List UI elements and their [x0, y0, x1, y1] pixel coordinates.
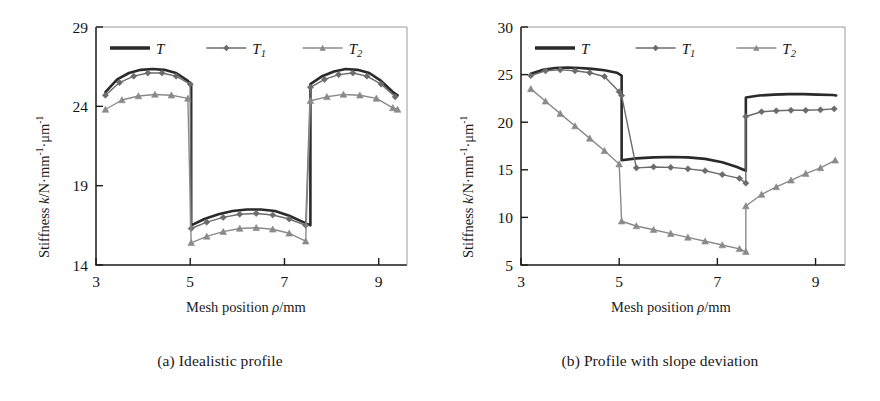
y-axis-label-b: Stiffness k/N·mm-1·μm-1: [458, 116, 477, 258]
y-tick-label: 24: [73, 98, 89, 115]
legend-label-T2: T2: [782, 41, 796, 59]
x-tick-label: 5: [186, 273, 194, 290]
marker-diamond: [633, 165, 639, 171]
marker-triangle: [832, 157, 839, 163]
y-tick-label: 10: [498, 209, 514, 226]
marker-diamond: [719, 171, 725, 177]
marker-diamond: [743, 113, 749, 119]
series-line-T: [105, 69, 397, 225]
legend-label-T1: T1: [252, 41, 266, 59]
y-tick-label: 29: [73, 19, 89, 36]
marker-diamond: [788, 107, 794, 113]
x-tick-label: 7: [281, 273, 289, 290]
x-tick-label: 7: [713, 273, 721, 290]
marker-diamond: [758, 109, 764, 115]
legend-label-T1: T1: [682, 41, 696, 59]
x-tick-label: 5: [615, 273, 623, 290]
marker-triangle: [618, 218, 625, 224]
y-tick-label: 30: [498, 19, 514, 36]
marker-diamond: [237, 211, 243, 217]
marker-triangle: [528, 86, 535, 92]
x-tick-label: 3: [517, 273, 525, 290]
caption-b: (b) Profile with slope deviation: [440, 352, 880, 370]
chart-panel-a: 141924293579 TT1T2 Stiffness k/N·mm-1·μm…: [0, 0, 440, 401]
y-tick-label: 19: [73, 177, 89, 194]
chart-a-svg: 141924293579 TT1T2: [0, 0, 440, 401]
legend-marker-diamond: [652, 45, 658, 51]
y-tick-label: 20: [498, 114, 514, 131]
plot-frame: [96, 27, 407, 265]
marker-triangle: [773, 184, 780, 190]
marker-triangle: [758, 191, 765, 197]
marker-diamond: [702, 168, 708, 174]
marker-triangle: [302, 238, 309, 244]
y-axis-label-a: Stiffness k/N·mm-1·μm-1: [34, 116, 53, 258]
marker-diamond: [587, 70, 593, 76]
series-line-T1: [105, 73, 395, 229]
marker-diamond: [131, 73, 137, 79]
legend-label-T2: T2: [349, 41, 363, 59]
y-tick-label: 5: [505, 257, 513, 274]
x-axis-label-a: Mesh position ρ/mm: [96, 299, 396, 316]
chart-panel-b: 510152025303579 TT1T2 Stiffness k/N·mm-1…: [440, 0, 880, 401]
legend-label-sub: 1: [690, 48, 695, 59]
marker-diamond: [253, 210, 259, 216]
series-line-T2: [531, 89, 835, 252]
chart-b-svg: 510152025303579 TT1T2: [440, 0, 880, 401]
marker-diamond: [817, 107, 823, 113]
marker-diamond: [307, 84, 313, 90]
y-tick-label: 25: [498, 66, 514, 83]
marker-triangle: [817, 165, 824, 171]
series-line-T2: [105, 94, 397, 242]
marker-triangle: [743, 248, 750, 254]
legend-label-sub: 1: [261, 48, 266, 59]
plot-frame: [521, 27, 845, 265]
legend-label-sub: 2: [791, 48, 797, 59]
marker-diamond: [270, 212, 276, 218]
marker-diamond: [803, 107, 809, 113]
legend-label-T: T: [156, 41, 166, 57]
legend-marker-diamond: [223, 45, 229, 51]
axis-spines: [96, 27, 407, 265]
caption-a: (a) Idealistic profile: [0, 352, 440, 370]
marker-diamond: [668, 164, 674, 170]
marker-triangle: [102, 106, 109, 112]
marker-diamond: [145, 70, 151, 76]
x-axis-label-b: Mesh position ρ/mm: [521, 299, 821, 316]
marker-triangle: [788, 177, 795, 183]
x-tick-label: 9: [375, 273, 383, 290]
axis-spines: [521, 27, 845, 265]
x-tick-label: 3: [92, 273, 100, 290]
marker-diamond: [220, 214, 226, 220]
x-tick-label: 9: [812, 273, 820, 290]
legend-label-sub: 2: [357, 48, 363, 59]
y-tick-label: 14: [73, 257, 89, 274]
figure-root: 141924293579 TT1T2 Stiffness k/N·mm-1·μm…: [0, 0, 880, 401]
legend-label-T: T: [581, 41, 591, 57]
marker-diamond: [650, 164, 656, 170]
marker-diamond: [336, 72, 342, 78]
series-line-T: [531, 67, 836, 170]
marker-diamond: [685, 166, 691, 172]
marker-triangle: [390, 105, 397, 111]
y-tick-label: 15: [498, 161, 514, 178]
marker-diamond: [831, 106, 837, 112]
marker-diamond: [773, 108, 779, 114]
